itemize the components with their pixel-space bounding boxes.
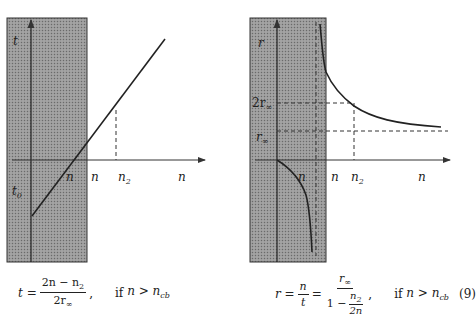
right-eq-inner-fraction: n2 2n: [348, 290, 363, 316]
right-eq-equals: =: [312, 287, 322, 301]
right-eq-fraction-1: n t: [298, 280, 309, 309]
right-eq-comma: ,: [368, 287, 372, 301]
right-x-label-n2: n2: [351, 170, 364, 186]
left-x-label-4: n: [178, 170, 186, 184]
right-diagram: r 2r∞ r∞ n n n2 n: [250, 18, 450, 262]
equation-number: (9): [459, 287, 476, 301]
left-equation: t = 2n − n2 2r∞ , if n > ncb: [18, 276, 170, 309]
right-eq-if: if: [394, 287, 402, 301]
left-x-label-1: n: [66, 170, 74, 184]
left-y-label: t: [13, 34, 18, 48]
left-x-label-2: n: [91, 170, 99, 184]
left-eq-denominator: 2r∞: [51, 293, 74, 309]
left-diagram: t t0 n n n2 n: [7, 18, 205, 262]
left-eq-if: if: [115, 286, 123, 300]
right-x-label-4: n: [418, 170, 426, 184]
right-eq-lhs: r =: [275, 287, 295, 301]
right-equation: r = n t = r∞ 1 − n2 2n , if n > ncb (9): [275, 272, 476, 316]
right-eq-fraction-2: r∞ 1 − n2 2n: [325, 272, 366, 316]
left-x-label-n2: n2: [118, 170, 131, 186]
left-eq-condition: n > ncb: [127, 284, 170, 300]
right-eq-numerator: r∞: [337, 272, 353, 289]
right-eq-denominator: 1 − n2 2n: [325, 289, 366, 316]
right-upper-curve: [320, 24, 441, 127]
left-eq-comma: ,: [89, 286, 93, 300]
left-eq-fraction: 2n − n2 2r∞: [40, 276, 86, 309]
left-shaded-region: [7, 18, 87, 262]
right-x-label-2: n: [331, 170, 339, 184]
left-eq-numerator: 2n − n2: [40, 276, 86, 293]
left-eq-lhs: t =: [18, 286, 37, 300]
right-eq-condition: n > ncb: [406, 286, 449, 302]
right-x-label-1: n: [298, 170, 306, 184]
